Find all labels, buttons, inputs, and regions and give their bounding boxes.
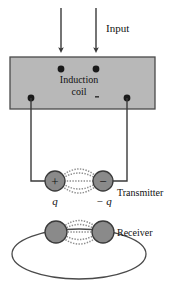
input-label: Input	[106, 22, 129, 34]
receiver-sphere-left	[45, 221, 67, 243]
receiver-field-lines	[63, 221, 96, 245]
transmitter-wires-group	[31, 98, 127, 181]
induction-coil-box: Induction coil	[10, 57, 155, 109]
terminal-top-right	[93, 66, 100, 73]
transmitter-field-lines	[62, 169, 96, 193]
induction-coil-label-line2: coil	[72, 86, 87, 97]
wire-left	[31, 98, 46, 181]
receiver-group: Receiver	[12, 221, 153, 280]
receiver-label: Receiver	[117, 227, 153, 238]
charge-label-negative: − q	[96, 195, 112, 207]
transmitter-label: Transmitter	[117, 187, 164, 198]
transmitter-group: + − q − q Transmitter	[45, 169, 164, 207]
charge-label-positive: q	[52, 195, 58, 207]
wire-right	[112, 98, 127, 181]
sphere-positive-sign: +	[51, 174, 58, 189]
sphere-negative-sign: −	[99, 174, 106, 189]
input-arrows-group: Input	[61, 8, 129, 50]
coil-box-speck	[95, 96, 99, 98]
receiver-sphere-right	[92, 221, 114, 243]
terminal-top-left	[58, 66, 65, 73]
physics-diagram: Input Induction coil	[0, 0, 180, 287]
induction-coil-label-line1: Induction	[60, 74, 98, 85]
